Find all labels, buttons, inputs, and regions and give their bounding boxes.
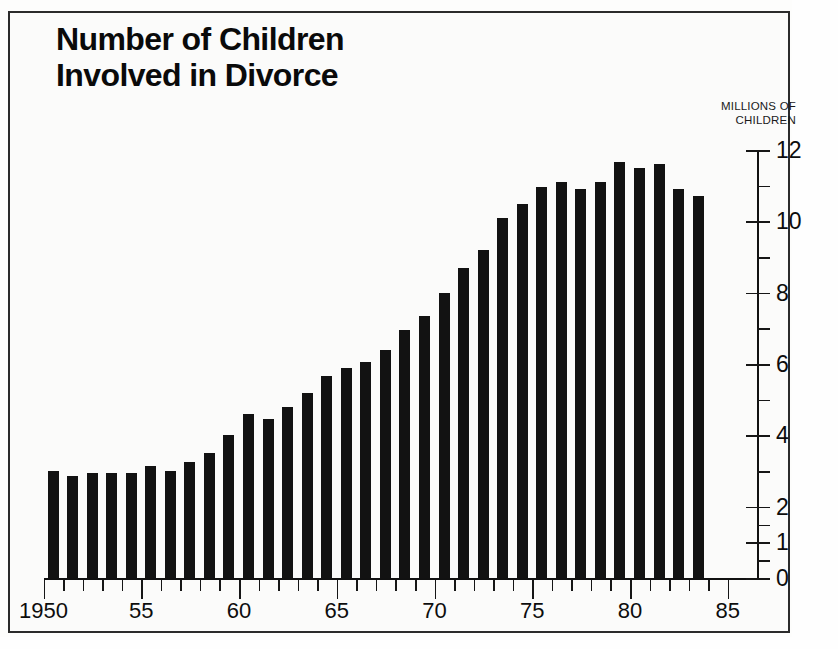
x-axis-major-tick: [630, 580, 632, 599]
bar: [263, 419, 274, 578]
x-axis-minor-tick: [591, 580, 593, 591]
x-axis-minor-tick: [259, 580, 261, 591]
x-axis-minor-tick: [513, 580, 515, 591]
x-axis-minor-tick: [650, 580, 652, 591]
bar: [282, 407, 293, 578]
x-axis-minor-tick: [610, 580, 612, 591]
y-axis-caption-line-2: CHILDREN: [660, 114, 796, 128]
bar-series: [44, 145, 734, 578]
y-axis-minor-tick: [757, 186, 770, 188]
x-axis-major-tick: [44, 580, 46, 599]
x-axis-tick-label: 1950: [19, 598, 68, 624]
y-axis-minor-tick: [757, 257, 770, 259]
x-axis-tick-label: 85: [716, 598, 740, 624]
plot-area: [44, 145, 734, 581]
chart-title: Number of Children Involved in Divorce: [56, 22, 576, 94]
x-axis-tick-label: 80: [618, 598, 642, 624]
x-axis-major-tick: [141, 580, 143, 599]
y-axis-major-tick: [746, 150, 770, 152]
x-axis-minor-tick: [200, 580, 202, 591]
bar: [419, 316, 430, 578]
x-axis-minor-tick: [415, 580, 417, 591]
bar: [67, 476, 78, 578]
bar: [243, 414, 254, 578]
y-axis-tick-label: 12: [776, 137, 802, 164]
bar: [48, 471, 59, 578]
bar: [478, 250, 489, 578]
x-axis-minor-tick: [278, 580, 280, 591]
chart-title-line-2: Involved in Divorce: [56, 58, 576, 94]
y-axis-major-tick: [746, 293, 770, 295]
bar: [302, 393, 313, 578]
x-axis-minor-tick: [454, 580, 456, 591]
x-axis-minor-tick: [356, 580, 358, 591]
x-axis-minor-tick: [669, 580, 671, 591]
bar: [184, 462, 195, 578]
x-axis-tick-label: 60: [227, 598, 251, 624]
y-axis-major-tick: [746, 435, 770, 437]
bar: [223, 435, 234, 578]
x-axis-minor-tick: [122, 580, 124, 591]
bar: [654, 164, 665, 578]
bar: [517, 204, 528, 579]
bar: [458, 268, 469, 578]
chart-title-line-1: Number of Children: [56, 22, 576, 58]
x-axis-minor-tick: [689, 580, 691, 591]
x-axis-minor-tick: [317, 580, 319, 591]
x-axis-minor-tick: [474, 580, 476, 591]
bar: [380, 350, 391, 578]
bar: [556, 182, 567, 578]
y-axis-minor-tick: [757, 560, 770, 562]
bar: [575, 189, 586, 578]
bar: [126, 473, 137, 578]
x-axis-major-tick: [728, 580, 730, 599]
y-axis-tick-label: 0: [776, 565, 789, 592]
y-axis-major-tick: [746, 507, 770, 509]
x-axis-tick-labels: 195055606570758085: [44, 598, 774, 632]
y-axis-caption: MILLIONS OF CHILDREN: [660, 100, 796, 127]
bar: [321, 376, 332, 578]
x-axis-minor-tick: [180, 580, 182, 591]
y-axis-tick-label: 8: [776, 279, 789, 306]
bar: [634, 168, 645, 578]
screenshot-root: Number of Children Involved in Divorce M…: [0, 0, 838, 649]
y-axis-ticks-and-labels: 1210864210: [742, 140, 838, 590]
y-axis-major-tick: [746, 221, 770, 223]
x-axis-tick-label: 70: [422, 598, 446, 624]
bar: [341, 368, 352, 578]
bar: [106, 473, 117, 578]
x-axis-major-tick: [337, 580, 339, 599]
x-axis-minor-tick: [102, 580, 104, 591]
bar: [673, 189, 684, 578]
x-axis-major-tick: [435, 580, 437, 599]
x-axis-minor-tick: [708, 580, 710, 591]
bar: [145, 466, 156, 578]
x-axis-major-tick: [532, 580, 534, 599]
y-axis-minor-tick: [757, 471, 770, 473]
bar: [693, 196, 704, 578]
bar: [204, 453, 215, 578]
x-axis-tick-label: 55: [129, 598, 153, 624]
y-axis-major-tick: [746, 578, 770, 580]
y-axis-major-tick: [746, 364, 770, 366]
x-axis-minor-tick: [219, 580, 221, 591]
y-axis-tick-label: 2: [776, 493, 789, 520]
x-axis-minor-tick: [161, 580, 163, 591]
y-axis-minor-tick: [757, 328, 770, 330]
bar: [595, 182, 606, 578]
y-axis-caption-line-1: MILLIONS OF: [660, 100, 796, 114]
x-axis-tick-label: 65: [325, 598, 349, 624]
y-axis-tick-label: 1: [776, 529, 789, 556]
y-axis-minor-tick: [757, 525, 770, 527]
x-axis-minor-tick: [571, 580, 573, 591]
bar: [87, 473, 98, 578]
paper-margin-bottom: [0, 637, 838, 649]
bar: [165, 471, 176, 578]
y-axis-major-tick: [746, 542, 770, 544]
x-axis-minor-tick: [493, 580, 495, 591]
x-axis-tick-label: 75: [520, 598, 544, 624]
x-axis-minor-tick: [376, 580, 378, 591]
y-axis-tick-label: 4: [776, 422, 789, 449]
x-axis-minor-tick: [63, 580, 65, 591]
bar: [360, 362, 371, 578]
